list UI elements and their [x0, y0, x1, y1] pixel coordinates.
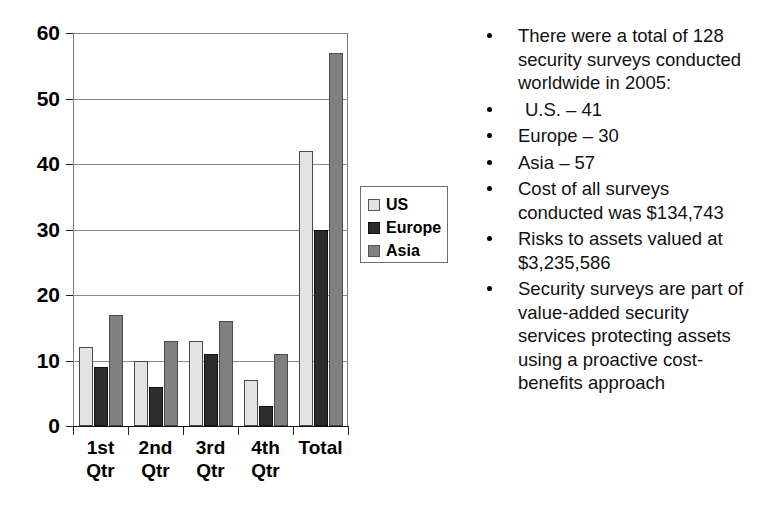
bullet-dot-icon	[487, 186, 492, 191]
legend-label: Europe	[386, 220, 441, 236]
y-tick-label: 0	[0, 415, 60, 436]
bar-asia-1	[164, 341, 178, 426]
bullet-text: U.S. – 41	[518, 98, 771, 122]
y-tick-mark	[66, 164, 73, 165]
bar-us-3	[244, 380, 258, 426]
y-tick-label: 40	[0, 153, 60, 174]
bullet-dot-icon	[487, 133, 492, 138]
bullet-text: Europe – 30	[518, 124, 771, 148]
bar-europe-1	[149, 387, 163, 426]
y-tick-mark	[66, 99, 73, 100]
bullet-dot-icon	[487, 33, 492, 38]
bar-asia-2	[219, 321, 233, 426]
bar-asia-0	[109, 315, 123, 426]
y-tick-label: 20	[0, 284, 60, 305]
legend-item-us: US	[368, 193, 447, 216]
gridline-60	[73, 33, 348, 34]
legend-item-asia: Asia	[368, 239, 447, 262]
bar-europe-0	[94, 367, 108, 426]
x-category-label: Total	[276, 436, 366, 459]
x-tick-mark	[183, 427, 184, 435]
bullet-item: Europe – 30	[478, 124, 771, 148]
bullet-text: Asia – 57	[518, 151, 771, 175]
x-tick-mark	[293, 427, 294, 435]
bullet-list: There were a total of 128 security surve…	[478, 24, 771, 398]
bar-us-1	[134, 361, 148, 427]
legend-item-europe: Europe	[368, 216, 447, 239]
bullet-text: Security surveys are part of value-added…	[518, 277, 771, 395]
legend-swatch-icon	[368, 199, 380, 211]
y-tick-label: 30	[0, 219, 60, 240]
bullet-item: Cost of all surveys conducted was $134,7…	[478, 177, 771, 224]
chart-legend: USEuropeAsia	[360, 186, 448, 263]
bar-europe-2	[204, 354, 218, 426]
bullet-dot-icon	[487, 236, 492, 241]
y-tick-mark	[66, 361, 73, 362]
bullet-item: Security surveys are part of value-added…	[478, 277, 771, 395]
bullet-item: There were a total of 128 security surve…	[478, 24, 771, 95]
bar-asia-3	[274, 354, 288, 426]
bullet-dot-icon	[487, 107, 492, 112]
bullet-text: There were a total of 128 security surve…	[518, 24, 771, 95]
bullet-item: U.S. – 41	[478, 98, 771, 122]
bar-europe-4	[314, 230, 328, 427]
y-tick-label: 10	[0, 350, 60, 371]
bullet-text: Risks to assets valued at $3,235,586	[518, 227, 771, 274]
x-tick-mark	[73, 427, 74, 435]
y-tick-label: 50	[0, 88, 60, 109]
legend-swatch-icon	[368, 222, 380, 234]
legend-label: US	[386, 197, 408, 213]
y-tick-mark	[66, 426, 73, 427]
bar-europe-3	[259, 406, 273, 426]
slide-root: 0102030405060 1st Qtr2nd Qtr3rd Qtr4th Q…	[0, 0, 771, 510]
bar-asia-4	[329, 53, 343, 426]
bar-us-4	[299, 151, 313, 426]
bullet-item: Risks to assets valued at $3,235,586	[478, 227, 771, 274]
bar-chart: 0102030405060 1st Qtr2nd Qtr3rd Qtr4th Q…	[0, 0, 465, 510]
y-tick-mark	[66, 33, 73, 34]
legend-label: Asia	[386, 243, 420, 259]
y-tick-label: 60	[0, 22, 60, 43]
bullet-dot-icon	[487, 160, 492, 165]
gridline-50	[73, 99, 348, 100]
x-tick-mark	[238, 427, 239, 435]
x-axis-line	[73, 426, 349, 427]
bullet-item: Asia – 57	[478, 151, 771, 175]
bullet-dot-icon	[487, 286, 492, 291]
y-tick-mark	[66, 230, 73, 231]
bullet-text: Cost of all surveys conducted was $134,7…	[518, 177, 771, 224]
x-tick-mark	[128, 427, 129, 435]
y-tick-mark	[66, 295, 73, 296]
x-tick-mark	[348, 427, 349, 435]
bar-us-2	[189, 341, 203, 426]
legend-swatch-icon	[368, 245, 380, 257]
bar-us-0	[79, 347, 93, 426]
